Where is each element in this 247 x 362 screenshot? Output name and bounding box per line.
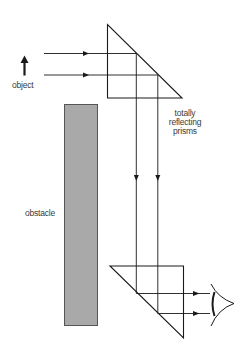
object-arrow-icon [21, 56, 29, 76]
top-prism [108, 25, 183, 99]
bottom-prism [110, 266, 184, 338]
prisms-label: totally reflecting prisms [169, 108, 202, 136]
outgoing-rays [136, 294, 210, 314]
eye-icon [211, 284, 234, 326]
svg-text:prisms: prisms [173, 126, 197, 136]
vertical-rays [136, 54, 158, 314]
incoming-ray-arrowheads [83, 51, 89, 78]
obstacle-label: obstacle [25, 208, 56, 218]
periscope-diagram: object totally reflecting prisms obstacl… [0, 0, 247, 362]
vertical-ray-arrowheads [134, 175, 161, 181]
obstacle [65, 105, 98, 326]
outgoing-ray-arrowheads [193, 291, 200, 316]
object-label: object [12, 80, 34, 90]
